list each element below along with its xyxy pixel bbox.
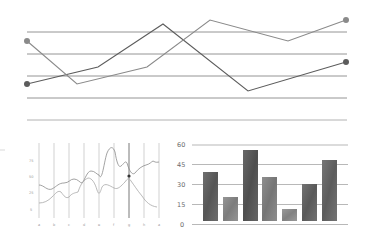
- small-highlight-marker: [127, 174, 130, 177]
- light-series-line: [27, 20, 346, 84]
- bar-chart: 60 45 30 15 0: [177, 141, 348, 229]
- small-x-ticks: a b c d e f g h a: [38, 223, 160, 227]
- small-y-ticks: 75 50 25 5: [29, 159, 33, 212]
- chart-canvas: 75 50 25 5 a b c d e f g h a: [0, 0, 372, 252]
- x-tick: h: [143, 223, 145, 227]
- y-tick: 60: [177, 141, 185, 149]
- x-tick: b: [53, 223, 56, 227]
- x-tick: g: [128, 223, 130, 227]
- small-vertical-gridlines: [39, 143, 159, 218]
- y-tick: 30: [177, 181, 185, 189]
- bar-y-ticks: 60 45 30 15 0: [177, 141, 185, 229]
- bars: [203, 150, 337, 221]
- dark-series-line: [27, 24, 346, 91]
- dark-series-end-marker: [343, 59, 349, 65]
- x-tick: c: [68, 223, 70, 227]
- x-tick: d: [83, 223, 85, 227]
- y-tick: 45: [177, 161, 185, 169]
- light-series-start-marker: [24, 38, 30, 44]
- y-tick: 0: [180, 221, 184, 229]
- dark-series-start-marker: [24, 81, 30, 87]
- x-tick: a: [158, 223, 160, 227]
- x-tick: e: [98, 223, 100, 227]
- y-tick: 75: [29, 159, 33, 163]
- top-line-chart: [24, 17, 349, 120]
- x-tick: a: [38, 223, 40, 227]
- y-tick: 50: [29, 175, 33, 179]
- x-tick: f: [113, 223, 115, 227]
- y-tick: 15: [177, 201, 185, 209]
- small-line-chart: 75 50 25 5 a b c d e f g h a: [0, 143, 160, 227]
- y-tick: 25: [29, 191, 33, 195]
- light-series-end-marker: [343, 17, 349, 23]
- small-series-2: [39, 178, 157, 207]
- y-tick: 5: [30, 208, 32, 212]
